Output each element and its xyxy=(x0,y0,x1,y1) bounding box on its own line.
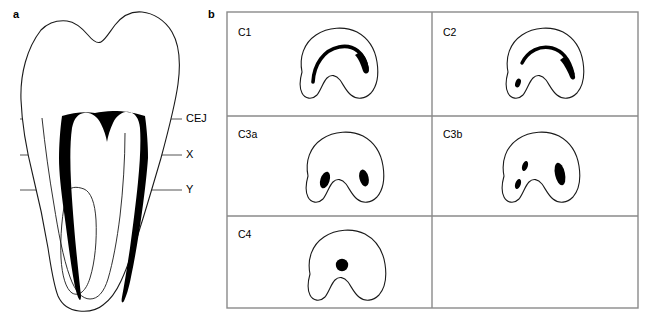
panel-a-tooth-section: a CEJ X Y xyxy=(0,0,200,321)
c2-root-outline xyxy=(506,28,584,98)
cell-label-c3a: C3a xyxy=(238,129,257,140)
cell-c2-drawing xyxy=(506,28,584,98)
cell-label-c3b: C3b xyxy=(443,129,462,140)
c3b-root-outline xyxy=(502,132,580,202)
cell-label-c1: C1 xyxy=(238,27,251,38)
cell-c3a-drawing xyxy=(306,132,384,202)
c3a-root-outline xyxy=(306,132,384,202)
cell-c3b-drawing xyxy=(502,132,580,202)
tooth-diagram-svg xyxy=(0,0,200,321)
figure-root: a CEJ X Y b xyxy=(0,0,647,321)
level-label-y: Y xyxy=(186,184,193,195)
panel-b-canal-grid: b xyxy=(200,0,647,321)
cell-c4-drawing xyxy=(308,230,386,300)
cell-label-c2: C2 xyxy=(443,27,456,38)
cell-c1-drawing xyxy=(300,28,378,98)
canal-grid-svg xyxy=(200,0,647,321)
tooth-outline xyxy=(21,12,179,311)
c4-canal-round xyxy=(336,259,348,271)
cell-label-c4: C4 xyxy=(238,229,251,240)
level-label-x: X xyxy=(186,149,193,160)
